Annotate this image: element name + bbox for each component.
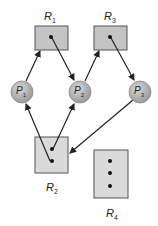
edge-p1-to-r1 (26, 51, 40, 81)
edge-p2-to-r3 (85, 51, 99, 81)
process-p3-node (129, 81, 151, 103)
process-p1-node (11, 81, 33, 103)
resource-r2-box (35, 137, 68, 173)
resource-allocation-graph: R1 R3 R2 R4 P1 P2 P3 (0, 0, 158, 226)
resource-r4-instance-3 (108, 184, 112, 188)
resource-r3-label: R3 (104, 11, 116, 24)
edge-p3-to-r2 (70, 100, 133, 153)
graph-canvas (0, 0, 158, 226)
resource-r2-instance-2 (50, 159, 54, 163)
label-subscript: 4 (114, 214, 118, 221)
resource-r4-label: R4 (106, 208, 118, 221)
label-subscript: 3 (112, 17, 116, 24)
resource-r4-instance-2 (108, 171, 112, 175)
resource-r4-instance-1 (108, 159, 112, 163)
resource-r1-label: R1 (44, 11, 56, 24)
resource-r2-label: R2 (46, 182, 58, 195)
label-subscript: 2 (54, 188, 58, 195)
label-letter: R (44, 10, 52, 22)
label-letter: R (106, 207, 114, 219)
process-p2-node (69, 81, 91, 103)
label-letter: R (104, 10, 112, 22)
label-letter: R (46, 181, 54, 193)
label-subscript: 1 (52, 17, 56, 24)
